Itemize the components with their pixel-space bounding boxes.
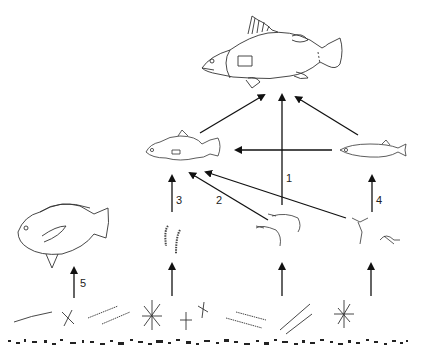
worm-icon bbox=[165, 226, 180, 254]
food-web-arrows bbox=[74, 95, 372, 298]
large-fish-icon bbox=[202, 16, 342, 88]
edge-label-5: 5 bbox=[80, 277, 86, 289]
shrimp-icon bbox=[256, 214, 300, 246]
food-web-diagram bbox=[0, 0, 426, 354]
tilapia-icon bbox=[18, 204, 109, 268]
edge-label-3: 3 bbox=[176, 194, 182, 206]
edge-label-4: 4 bbox=[376, 194, 382, 206]
arrow-mid-to-top bbox=[200, 95, 264, 133]
arrow-forage-to-top bbox=[296, 97, 358, 135]
edge-label-2: 2 bbox=[216, 194, 222, 206]
copepod-icon bbox=[352, 218, 400, 244]
sediment-band bbox=[8, 339, 408, 345]
edge-label-1: 1 bbox=[286, 172, 292, 184]
minnow-icon bbox=[340, 140, 406, 157]
small-perch-icon bbox=[146, 130, 220, 160]
algae-icon bbox=[14, 300, 354, 334]
